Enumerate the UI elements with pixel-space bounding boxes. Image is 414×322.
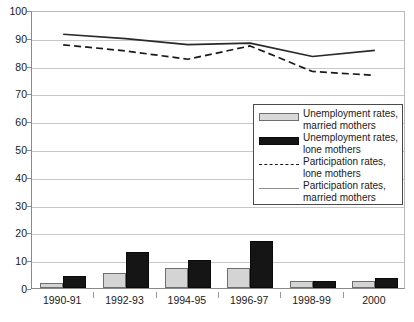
x-axis-tick-mark (280, 292, 281, 298)
legend-item: Unemployment rates,lone mothers (259, 134, 401, 158)
legend-label-line1: Unemployment rates, (303, 108, 403, 120)
chart-legend: Unemployment rates,married mothersUnempl… (253, 104, 403, 205)
legend-item-label: Unemployment rates,married mothers (303, 108, 403, 131)
y-axis-tick-label: 70 (0, 89, 27, 100)
legend-label-line2: lone mothers (303, 168, 403, 180)
y-axis-tick-label: 90 (0, 34, 27, 45)
y-axis-tick-label: 30 (0, 201, 27, 212)
x-axis-tick-mark (218, 292, 219, 298)
x-axis-labels: 1990-911992-931994-951996-971998-992000 (31, 292, 405, 316)
x-axis-tick-label: 1998-99 (280, 295, 342, 306)
x-axis-tick-label: 1990-91 (31, 295, 93, 306)
legend-label-line2: married mothers (303, 120, 403, 132)
x-axis-tick-mark (93, 292, 94, 298)
legend-swatch-dark-box (259, 137, 299, 145)
y-axis-tick-label: 20 (0, 228, 27, 239)
x-axis-tick-label: 1992-93 (93, 295, 155, 306)
legend-swatch-light-box (259, 113, 299, 121)
x-axis-tick-label: 2000 (343, 295, 405, 306)
legend-item-label: Unemployment rates,lone mothers (303, 132, 403, 155)
y-axis-tick-label: 60 (0, 117, 27, 128)
legend-label-line1: Participation rates, (303, 156, 403, 168)
chart-container: 0102030405060708090100 1990-911992-93199… (0, 0, 414, 322)
legend-item: Participation rates,married mothers (259, 182, 401, 206)
x-axis-tick-mark (343, 292, 344, 298)
legend-swatch-dashed-line (259, 164, 299, 165)
y-axis-labels: 0102030405060708090100 (0, 0, 27, 322)
line-series (63, 45, 375, 76)
y-axis-tick-label: 80 (0, 62, 27, 73)
legend-swatch-solid-line (259, 188, 299, 189)
legend-label-line1: Unemployment rates, (303, 132, 403, 144)
y-axis-tick-label: 0 (0, 284, 27, 295)
x-axis-tick-label: 1996-97 (218, 295, 280, 306)
y-axis-tick-label: 50 (0, 145, 27, 156)
legend-label-line2: married mothers (303, 192, 403, 204)
x-axis-tick-label: 1994-95 (156, 295, 218, 306)
legend-item: Participation rates,lone mothers (259, 158, 401, 182)
y-axis-tick-mark (27, 289, 31, 290)
legend-label-line1: Participation rates, (303, 180, 403, 192)
legend-label-line2: lone mothers (303, 144, 403, 156)
y-axis-tick-label: 10 (0, 256, 27, 267)
x-axis-tick-mark (156, 292, 157, 298)
y-axis-tick-label: 40 (0, 173, 27, 184)
legend-item-label: Participation rates,lone mothers (303, 156, 403, 179)
legend-item-label: Participation rates,married mothers (303, 180, 403, 203)
legend-item: Unemployment rates,married mothers (259, 110, 401, 134)
y-axis-tick-label: 100 (0, 6, 27, 17)
